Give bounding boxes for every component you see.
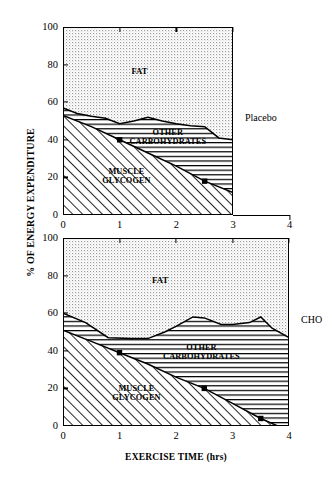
y-tick-mark <box>63 64 68 65</box>
x-axis-extension <box>233 215 290 216</box>
y-tick-label: 60 <box>48 97 59 108</box>
y-tick-label: 100 <box>42 233 58 244</box>
y-tick-mark <box>63 350 68 351</box>
x-tick-mark <box>119 27 120 32</box>
y-tick-label: 100 <box>42 22 58 33</box>
plot-frame-placebo <box>63 27 233 215</box>
y-tick-label: 0 <box>53 210 58 221</box>
region-label-fat: FAT <box>152 277 168 286</box>
x-tick-mark <box>176 27 177 32</box>
chart-panel-cho: CHO 02040608010001234FATOTHERCARBOHYDRAT… <box>63 238 289 426</box>
y-tick-label: 80 <box>48 59 59 70</box>
x-tick-label: 2 <box>173 431 178 442</box>
x-tick-label: 0 <box>60 220 65 231</box>
region-label-other-carbohydrates-line2: CARBOHYDRATES <box>163 353 240 362</box>
y-tick-mark <box>63 275 68 276</box>
x-tick-label: 1 <box>117 220 122 231</box>
y-tick-label: 20 <box>48 383 59 394</box>
region-label-fat: FAT <box>131 67 147 76</box>
y-tick-mark <box>63 102 68 103</box>
y-tick-label: 60 <box>48 308 59 319</box>
y-tick-mark <box>63 388 68 389</box>
x-tick-mark <box>232 27 233 32</box>
y-tick-mark <box>63 177 68 178</box>
panel-label-cho: CHO <box>301 314 322 325</box>
x-tick-mark <box>119 238 120 243</box>
y-tick-label: 40 <box>48 346 59 357</box>
x-tick-label: 4 <box>287 220 292 231</box>
region-label-other-carbohydrates-line2: CARBOHYDRATES <box>129 138 206 147</box>
region-label-other-carbohydrates: OTHERCARBOHYDRATES <box>129 129 206 147</box>
x-tick-mark <box>288 238 289 243</box>
region-label-other-carbohydrates: OTHERCARBOHYDRATES <box>163 344 240 362</box>
y-tick-label: 20 <box>48 172 59 183</box>
figure: % OF ENERGY EXPENDITURE EXERCISE TIME (h… <box>0 0 332 478</box>
y-tick-mark <box>63 139 68 140</box>
y-tick-label: 40 <box>48 135 59 146</box>
chart-panel-placebo: Placebo 0204060801000123FATOTHERCARBOHYD… <box>63 27 233 215</box>
x-tick-label: 2 <box>174 220 179 231</box>
plot-frame-cho <box>63 238 289 426</box>
region-label-muscle-glycogen: MUSCLEGLYCOGEN <box>102 168 150 186</box>
x-tick-mark <box>175 238 176 243</box>
x-tick-label: 0 <box>60 431 65 442</box>
panel-label-placebo: Placebo <box>245 112 277 123</box>
region-label-muscle-glycogen-line2: GLYCOGEN <box>112 394 160 403</box>
x-tick-label: 3 <box>230 220 235 231</box>
y-tick-mark <box>63 313 68 314</box>
region-label-muscle-glycogen: MUSCLEGLYCOGEN <box>112 385 160 403</box>
x-tick-label: 1 <box>117 431 122 442</box>
x-axis-title: EXERCISE TIME (hrs) <box>63 452 289 462</box>
x-tick-label: 3 <box>230 431 235 442</box>
y-tick-label: 80 <box>48 270 59 281</box>
x-tick-mark <box>232 238 233 243</box>
y-axis-title: % OF ENERGY EXPENDITURE <box>25 103 36 303</box>
y-tick-label: 0 <box>53 421 58 432</box>
x-tick-label: 4 <box>286 431 291 442</box>
region-label-muscle-glycogen-line2: GLYCOGEN <box>102 177 150 186</box>
